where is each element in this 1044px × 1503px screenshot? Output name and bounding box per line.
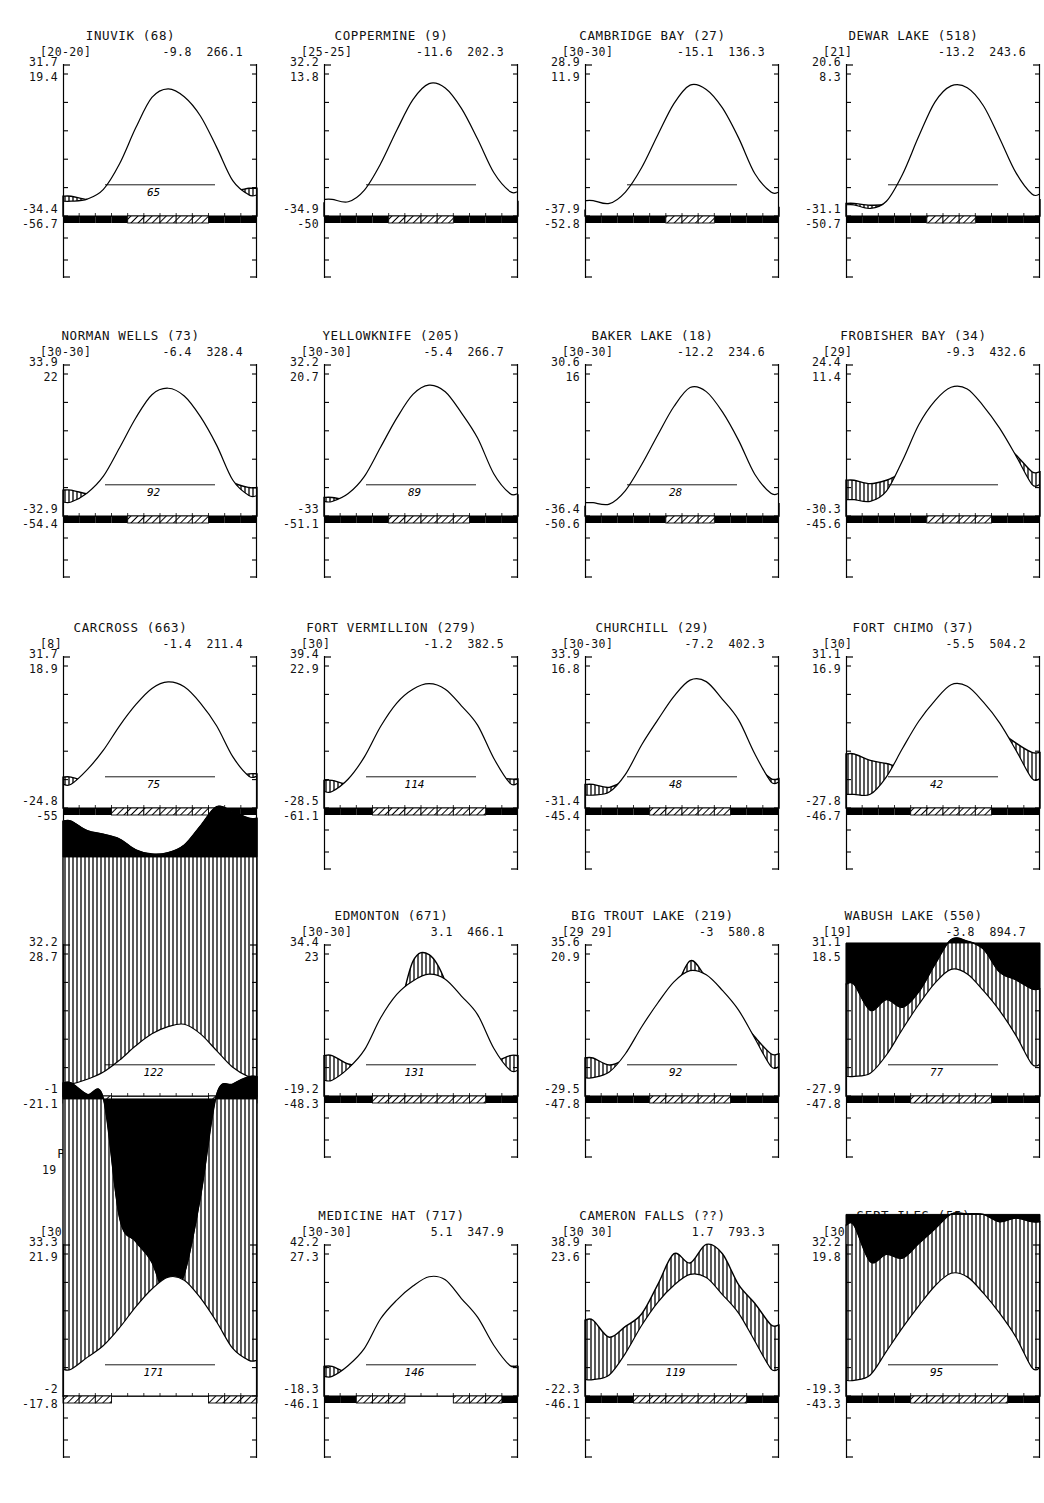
abs-max-label: 20.6 — [785, 55, 841, 69]
plot-area: 119 — [585, 1244, 779, 1458]
climate-panel-norman-wells: NORMAN WELLS (73) [30-30] -6.4 328.4 33.… — [0, 300, 261, 600]
mean-max-label: 16.9 — [785, 662, 841, 676]
abs-min-label: -50 — [263, 217, 319, 231]
abs-max-label: 24.4 — [785, 355, 841, 369]
frost-free-days-label: 131 — [405, 1066, 425, 1079]
mean-max-label: 22.9 — [263, 662, 319, 676]
station-stats: 5.1 347.9 — [431, 1225, 504, 1239]
plot-area: 131 — [324, 944, 518, 1158]
station-stats: -15.1 136.3 — [677, 45, 765, 59]
plot-area: 89 — [324, 364, 518, 578]
abs-min-label: -54.4 — [2, 517, 58, 531]
abs-max-label: 31.1 — [785, 647, 841, 661]
abs-max-label: 28.9 — [524, 55, 580, 69]
frost-free-days-label: 92 — [669, 1066, 683, 1079]
mean-min-label: -34.9 — [263, 202, 319, 216]
abs-min-label: -51.1 — [263, 517, 319, 531]
frost-free-days-label: 42 — [930, 778, 944, 791]
mean-max-label: 16.8 — [524, 662, 580, 676]
climate-panel-coppermine: COPPERMINE (9) [25-25] -11.6 202.3 32.2 … — [261, 0, 522, 300]
climate-panel-inuvik: INUVIK (68) [20-20] -9.8 266.1 31.7 19.4… — [0, 0, 261, 300]
mean-min-label: -29.5 — [524, 1082, 580, 1096]
frost-free-days-label: 92 — [147, 486, 161, 499]
plot-area: 171 — [63, 1244, 257, 1458]
station-title: FORT VERMILLION (279) — [261, 620, 522, 635]
climate-panel-cameron-falls: CAMERON FALLS (??) [30 30] 1.7 793.3 38.… — [522, 1180, 783, 1480]
abs-min-label: -56.7 — [2, 217, 58, 231]
station-stats: -13.2 243.6 — [938, 45, 1026, 59]
mean-min-label: -19.3 — [785, 1382, 841, 1396]
mean-min-label: -27.8 — [785, 794, 841, 808]
station-title: EDMONTON (671) — [261, 908, 522, 923]
abs-max-label: 39.4 — [263, 647, 319, 661]
abs-min-label: -52.8 — [524, 217, 580, 231]
climate-panel-fort-vermillion: FORT VERMILLION (279) [30] -1.2 382.5 39… — [261, 592, 522, 892]
abs-min-label: -47.8 — [524, 1097, 580, 1111]
mean-max-label: 23.6 — [524, 1250, 580, 1264]
climate-panel-medicine-hat: MEDICINE HAT (717) [30-30] 5.1 347.9 42.… — [261, 1180, 522, 1480]
plot-area — [324, 64, 518, 278]
mean-min-label: -1 — [2, 1082, 58, 1096]
mean-max-label: 28.7 — [2, 950, 58, 964]
abs-min-label: -50.6 — [524, 517, 580, 531]
climate-diagram-grid: INUVIK (68) [20-20] -9.8 266.1 31.7 19.4… — [0, 0, 1044, 1503]
mean-max-label: 18.9 — [2, 662, 58, 676]
station-stats: -7.2 402.3 — [684, 637, 765, 651]
mean-min-label: -24.8 — [2, 794, 58, 808]
abs-max-label: 38.9 — [524, 1235, 580, 1249]
station-stats: -11.6 202.3 — [416, 45, 504, 59]
abs-max-label: 32.2 — [263, 55, 319, 69]
plot-area: 92 — [585, 944, 779, 1158]
frost-free-days-label: 122 — [144, 1066, 164, 1079]
frost-free-days-label: 65 — [147, 186, 160, 199]
plot-area — [846, 64, 1040, 278]
plot-area — [585, 64, 779, 278]
abs-max-label: 33.9 — [524, 647, 580, 661]
station-title: INUVIK (68) — [0, 28, 261, 43]
abs-max-label: 34.4 — [263, 935, 319, 949]
mean-max-label: 27.3 — [263, 1250, 319, 1264]
frost-free-days-label: 48 — [669, 778, 683, 791]
station-title: CAMBRIDGE BAY (27) — [522, 28, 783, 43]
frost-free-days-label: 114 — [405, 778, 425, 791]
abs-max-label: 32.2 — [2, 935, 58, 949]
mean-max-label: 20.7 — [263, 370, 319, 384]
temperature-area — [846, 85, 1040, 216]
abs-min-label: -46.1 — [524, 1397, 580, 1411]
station-title: MEDICINE HAT (717) — [261, 1208, 522, 1223]
station-stats: -1.4 211.4 — [162, 637, 243, 651]
climate-panel-sept-iles: SEPT-ILES (55) [30] 1.1 1124.9 32.2 19.8… — [783, 1180, 1044, 1480]
climate-panel-fort-chimo: FORT CHIMO (37) [30] -5.5 504.2 31.1 16.… — [783, 592, 1044, 892]
plot-area: 95 — [846, 1244, 1040, 1458]
station-title: BAKER LAKE (18) — [522, 328, 783, 343]
mean-min-label: -30.3 — [785, 502, 841, 516]
temperature-area — [324, 83, 518, 216]
station-stats: -9.8 266.1 — [162, 45, 243, 59]
station-stats: -6.4 328.4 — [162, 345, 243, 359]
mean-max-label: 11.4 — [785, 370, 841, 384]
mean-min-label: -22.3 — [524, 1382, 580, 1396]
plot-area — [846, 364, 1040, 578]
plot-area: 42 — [846, 656, 1040, 870]
station-title: FROBISHER BAY (34) — [783, 328, 1044, 343]
mean-min-label: -27.9 — [785, 1082, 841, 1096]
mean-min-label: -19.2 — [263, 1082, 319, 1096]
mean-max-label: 13.8 — [263, 70, 319, 84]
mean-min-label: -31.1 — [785, 202, 841, 216]
abs-min-label: -45.6 — [785, 517, 841, 531]
frost-free-days-label: 89 — [408, 486, 421, 499]
abs-min-label: -45.4 — [524, 809, 580, 823]
plot-area: 146 — [324, 1244, 518, 1458]
abs-max-label: 35.6 — [524, 935, 580, 949]
frost-free-days-label: 171 — [144, 1366, 164, 1379]
mean-min-label: -36.4 — [524, 502, 580, 516]
climate-panel-dewar-lake: DEWAR LAKE (518) [21] -13.2 243.6 20.6 8… — [783, 0, 1044, 300]
station-stats: 1.7 793.3 — [692, 1225, 765, 1239]
plot-area: 114 — [324, 656, 518, 870]
station-title: WABUSH LAKE (550) — [783, 908, 1044, 923]
abs-max-label: 32.2 — [263, 355, 319, 369]
frost-free-days-label: 28 — [669, 486, 683, 499]
abs-min-label: -21.1 — [2, 1097, 58, 1111]
abs-max-label: 32.2 — [785, 1235, 841, 1249]
plot-area: 28 — [585, 364, 779, 578]
